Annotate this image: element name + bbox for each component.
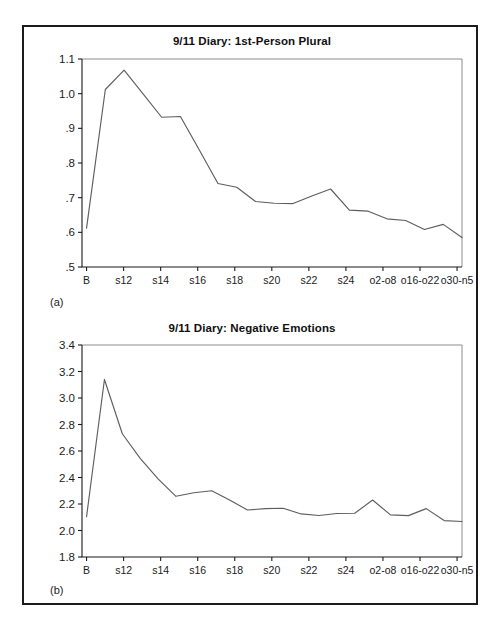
data-series-line [87, 70, 462, 237]
x-axis-tick-label: s24 [337, 564, 354, 576]
x-axis-tick-label: B [83, 564, 90, 576]
y-axis-tick-label: 2.2 [59, 498, 75, 510]
plot-area-a: 1.11.0.9.8.7.6.5Bs12s14s16s18s20s22s24o2… [24, 27, 480, 319]
x-axis-tick-label: s12 [115, 274, 132, 286]
x-axis-tick-label: s12 [115, 564, 132, 576]
x-axis-tick-label: s18 [226, 274, 243, 286]
x-axis-tick-label: s16 [189, 274, 206, 286]
figure-frame: 9/11 Diary: 1st-Person Plural 1.11.0.9.8… [22, 25, 478, 605]
data-series-line [87, 379, 462, 521]
panel-label-a: (a) [50, 296, 63, 308]
x-axis-tick-label: o16-o22 [401, 564, 440, 576]
x-axis-tick-label: s22 [300, 274, 317, 286]
x-axis-tick-label: B [83, 274, 90, 286]
x-axis-tick-label: o2-o8 [370, 564, 397, 576]
y-axis-tick-label: 1.1 [59, 53, 75, 65]
chart-panel-a: 9/11 Diary: 1st-Person Plural 1.11.0.9.8… [24, 27, 480, 319]
y-axis-tick-label: .8 [65, 157, 75, 169]
y-axis-tick-label: 1.8 [59, 551, 75, 563]
x-axis-tick-label: s22 [300, 564, 317, 576]
x-axis-tick-label: o30-n5 [441, 564, 474, 576]
y-axis-tick-label: .6 [65, 226, 75, 238]
plot-area-b: 3.43.23.02.82.62.42.22.01.8Bs12s14s16s18… [24, 319, 480, 607]
x-axis-tick-label: o2-o8 [370, 274, 397, 286]
y-axis-tick-label: 2.6 [59, 445, 75, 457]
x-axis-tick-label: s14 [152, 564, 169, 576]
x-axis-tick-label: s16 [189, 564, 206, 576]
panel-label-b: (b) [50, 584, 63, 596]
y-axis-tick-label: 3.4 [59, 339, 76, 351]
chart-panel-b: 9/11 Diary: Negative Emotions 3.43.23.02… [24, 319, 480, 607]
x-axis-tick-label: s14 [152, 274, 169, 286]
y-axis-tick-label: 2.8 [59, 419, 75, 431]
x-axis-tick-label: s24 [337, 274, 354, 286]
x-axis-tick-label: o16-o22 [401, 274, 440, 286]
y-axis-tick-label: .7 [65, 192, 75, 204]
y-axis-tick-label: 2.0 [59, 525, 75, 537]
x-axis-tick-label: s20 [263, 564, 280, 576]
y-axis-tick-label: 2.4 [59, 472, 76, 484]
y-axis-tick-label: .9 [65, 122, 75, 134]
y-axis-tick-label: .5 [65, 261, 75, 273]
x-axis-tick-label: s20 [263, 274, 280, 286]
y-axis-tick-label: 1.0 [59, 88, 75, 100]
x-axis-tick-label: s18 [226, 564, 243, 576]
y-axis-tick-label: 3.0 [59, 392, 75, 404]
y-axis-tick-label: 3.2 [59, 366, 75, 378]
x-axis-tick-label: o30-n5 [441, 274, 474, 286]
